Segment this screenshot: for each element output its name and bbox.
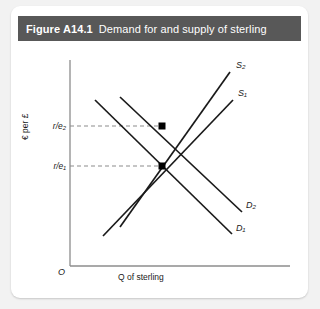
figure-title-bar: Figure A14.1 Demand for and supply of st…: [18, 16, 301, 41]
figure-number: Figure A14.1: [26, 23, 93, 35]
curve-label-d2: D₂: [246, 200, 256, 210]
figure-caption: Demand for and supply of sterling: [99, 23, 267, 35]
y-tick-label-2: r/e₂: [38, 121, 66, 131]
curve-label-d1: D₁: [236, 223, 245, 233]
x-axis-title: Q of sterling: [118, 272, 164, 282]
curve-label-s1: S₁: [238, 88, 247, 98]
curve-label-s2: S₂: [236, 60, 245, 70]
y-axis-title: € per £: [20, 80, 30, 140]
figure-card: [11, 6, 308, 298]
y-tick-label-1: r/e₁: [38, 161, 66, 171]
origin-label: O: [58, 267, 65, 277]
figure-screenshot: Figure A14.1 Demand for and supply of st…: [0, 0, 320, 309]
